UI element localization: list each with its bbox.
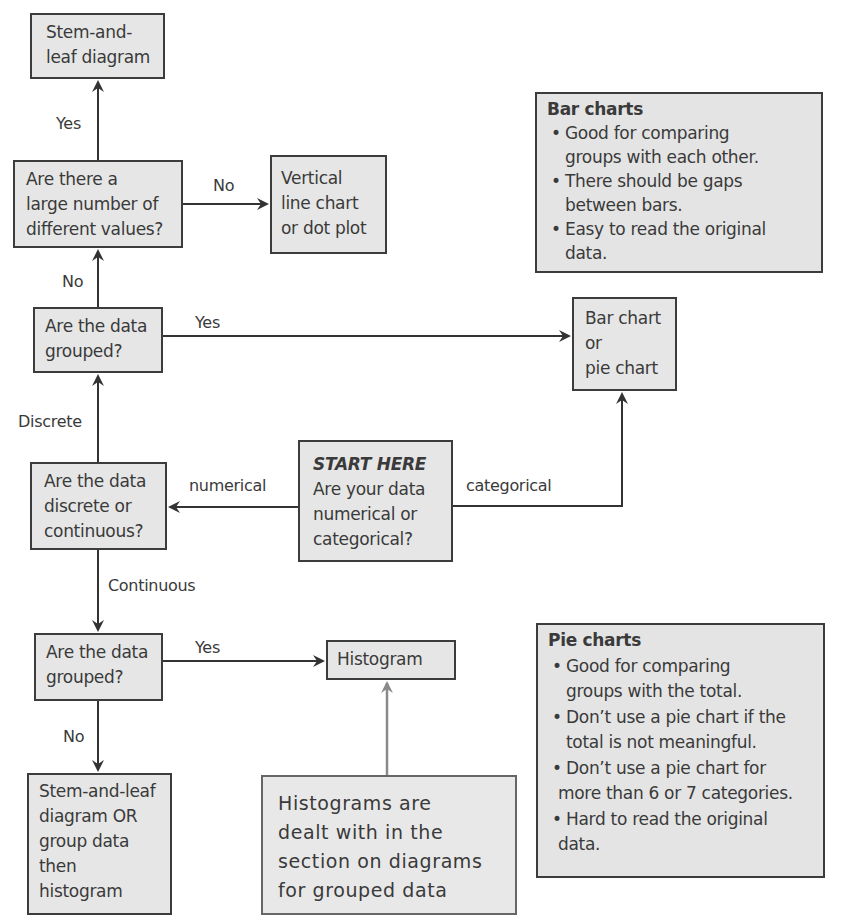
note-bullet: Don’t use a pie chart if the total is no… (548, 705, 815, 756)
node-text: histogram (39, 879, 162, 904)
pie-charts-note: Pie charts Good for comparing groups wit… (536, 623, 825, 878)
node-discrete-or-continuous-question: Are the data discrete or continuous? (30, 462, 167, 550)
node-stem-leaf-or-group-data: Stem-and-leaf diagram OR group data then… (27, 773, 172, 915)
note-title: Bar charts (547, 97, 813, 121)
bullet-text: Good for comparing (565, 121, 813, 145)
bullet-text: Easy to read the original (565, 217, 813, 241)
note-bullet: Don’t use a pie chart for more than 6 or… (548, 756, 815, 807)
node-text: then (39, 854, 162, 879)
edge-label-numerical: numerical (189, 476, 266, 495)
node-text: Are the data (46, 640, 153, 665)
bullet-text: Hard to read the original (566, 807, 815, 833)
node-text: dealt with in the (278, 818, 507, 847)
bullet-text: Good for comparing (566, 654, 815, 680)
node-start-here: START HERE Are your data numerical or ca… (298, 440, 453, 562)
note-title: Pie charts (548, 628, 815, 654)
bullet-text: Don’t use a pie chart for (566, 756, 815, 782)
note-bullet: There should be gaps between bars. (547, 169, 813, 217)
note-bullet: Good for comparing groups with each othe… (547, 121, 813, 169)
node-text: different values? (26, 217, 173, 242)
node-text: line chart (281, 191, 377, 216)
note-bullets: Good for comparing groups with the total… (548, 654, 815, 858)
bullet-text: total is not meaningful. (566, 730, 815, 756)
node-text: for grouped data (278, 876, 507, 905)
node-vertical-line-chart: Vertical line chart or dot plot (270, 155, 387, 254)
note-bullet: Good for comparing groups with the total… (548, 654, 815, 705)
node-text: Vertical (281, 166, 377, 191)
note-bullets: Good for comparing groups with each othe… (547, 121, 813, 265)
edge-label-categorical: categorical (466, 476, 551, 495)
node-bar-or-pie-chart: Bar chart or pie chart (572, 297, 677, 391)
node-grouped-question-bottom: Are the data grouped? (34, 633, 163, 701)
node-text: or (585, 331, 667, 356)
node-text: leaf diagram (46, 45, 155, 70)
edge-label-yes-histogram: Yes (195, 638, 220, 657)
node-text: Bar chart (585, 306, 667, 331)
node-text: Histogram (337, 647, 446, 672)
bullet-text: data. (565, 241, 813, 265)
node-text: Are the data (45, 314, 153, 339)
edge-label-continuous: Continuous (108, 576, 195, 595)
node-histogram: Histogram (326, 640, 456, 680)
node-text: categorical? (313, 527, 443, 552)
node-text: discrete or (44, 494, 157, 519)
edge-label-no-large-number: No (62, 272, 83, 291)
start-heading: START HERE (313, 452, 443, 477)
edge-label-no-vertical: No (213, 176, 234, 195)
node-text: Histograms are (278, 789, 507, 818)
node-text: pie chart (585, 356, 667, 381)
bullet-text: Don’t use a pie chart if the (566, 705, 815, 731)
bar-charts-note: Bar charts Good for comparing groups wit… (535, 92, 823, 273)
bullet-text: groups with the total. (566, 679, 815, 705)
node-stem-and-leaf-diagram: Stem-and- leaf diagram (30, 13, 165, 79)
node-text: section on diagrams (278, 847, 507, 876)
bullet-text: data. (558, 832, 815, 858)
node-histograms-note: Histograms are dealt with in the section… (261, 775, 517, 915)
node-text: numerical or (313, 502, 443, 527)
edge-label-yes-bar-pie: Yes (195, 313, 220, 332)
node-text: Are there a (26, 167, 173, 192)
note-bullet: Hard to read the original data. (548, 807, 815, 858)
note-bullet: Easy to read the original data. (547, 217, 813, 265)
bullet-text: groups with each other. (565, 145, 813, 169)
node-text: diagram OR (39, 804, 162, 829)
node-text: group data (39, 829, 162, 854)
bullet-text: more than 6 or 7 categories. (558, 781, 815, 807)
node-text: continuous? (44, 519, 157, 544)
node-text: or dot plot (281, 216, 377, 241)
bullet-text: There should be gaps (565, 169, 813, 193)
node-text: Are the data (44, 469, 157, 494)
edge-label-yes-stem-leaf: Yes (56, 114, 81, 133)
node-text: Stem-and-leaf (39, 779, 162, 804)
node-large-number-question: Are there a large number of different va… (13, 160, 183, 248)
node-grouped-question-top: Are the data grouped? (33, 307, 163, 373)
edge-label-no-stem-leaf-or-group: No (63, 727, 84, 746)
node-text: large number of (26, 192, 173, 217)
bullet-text: between bars. (565, 193, 813, 217)
node-text: grouped? (45, 339, 153, 364)
node-text: Are your data (313, 477, 443, 502)
node-text: grouped? (46, 665, 153, 690)
edge-label-discrete: Discrete (18, 412, 82, 431)
node-text: Stem-and- (46, 20, 155, 45)
